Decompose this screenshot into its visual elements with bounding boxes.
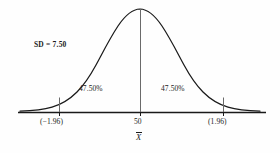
axis-tick-label-center: 50	[134, 118, 142, 126]
axis-tick-label-left: (−1.96)	[40, 118, 63, 126]
normal-distribution-figure: SD = 7.50 47.50% 47.50% (−1.96) 50 (1.96…	[0, 0, 280, 153]
distribution-curve-svg	[0, 0, 280, 153]
area-percent-right-label: 47.50%	[161, 85, 185, 93]
x-bar-axis-label: X	[136, 133, 141, 142]
axis-tick-label-right: (1.96)	[208, 118, 227, 126]
sd-annotation-label: SD = 7.50	[34, 41, 67, 49]
x-bar-overline	[136, 132, 142, 133]
area-percent-left-label: 47.50%	[79, 85, 103, 93]
x-bar-glyph: X	[136, 133, 141, 142]
x-bar-letter: X	[136, 132, 141, 142]
